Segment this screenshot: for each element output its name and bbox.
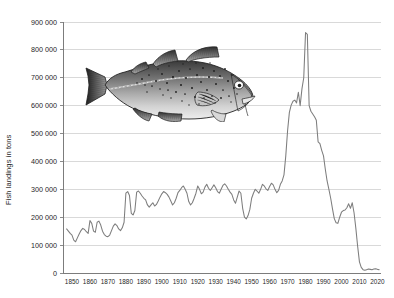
x-tick-label: 1910 xyxy=(173,278,188,285)
y-tick-label: 800 000 xyxy=(31,45,57,54)
chart-figure: 0100 000200 000300 000400 000500 000600 … xyxy=(0,0,394,298)
axes xyxy=(63,22,381,273)
y-tick-label: 400 000 xyxy=(31,157,57,166)
x-tick-label: 1860 xyxy=(83,278,98,285)
x-tick-label: 1970 xyxy=(280,278,295,285)
x-tick-label: 1940 xyxy=(227,278,242,285)
y-tick-label: 700 000 xyxy=(31,73,57,82)
x-tick-label: 1900 xyxy=(155,278,170,285)
y-tick-label: 300 000 xyxy=(31,185,57,194)
series-line-fish-landings xyxy=(67,33,380,271)
x-tick-label: 2000 xyxy=(334,278,349,285)
x-tick-label: 2010 xyxy=(352,278,367,285)
y-tick-label: 100 000 xyxy=(31,241,57,250)
y-axis-title: Fish landings in tons xyxy=(4,134,13,205)
chart-canvas: 0100 000200 000300 000400 000500 000600 … xyxy=(0,0,394,298)
x-tick-label: 1850 xyxy=(65,278,80,285)
x-tick-label: 1880 xyxy=(119,278,134,285)
y-tick-label: 200 000 xyxy=(31,213,57,222)
y-axis-tick-labels: 0100 000200 000300 000400 000500 000600 … xyxy=(31,18,57,278)
x-tick-label: 1890 xyxy=(137,278,152,285)
x-tick-label: 1980 xyxy=(298,278,313,285)
data-series xyxy=(67,33,380,271)
x-tick-label: 1870 xyxy=(101,278,116,285)
y-tick-label: 900 000 xyxy=(31,18,57,27)
y-tick-label: 600 000 xyxy=(31,101,57,110)
x-axis-tick-labels: 1850186018701880189019001910192019301940… xyxy=(65,278,385,285)
y-tick-label: 500 000 xyxy=(31,129,57,138)
x-tick-label: 2020 xyxy=(370,278,385,285)
x-tick-label: 1960 xyxy=(263,278,278,285)
x-tick-label: 1950 xyxy=(245,278,260,285)
axis-tickmarks xyxy=(60,22,64,273)
x-tick-label: 1930 xyxy=(209,278,224,285)
x-tick-label: 1990 xyxy=(316,278,331,285)
y-tick-label: 0 xyxy=(53,269,57,278)
x-tick-label: 1920 xyxy=(191,278,206,285)
